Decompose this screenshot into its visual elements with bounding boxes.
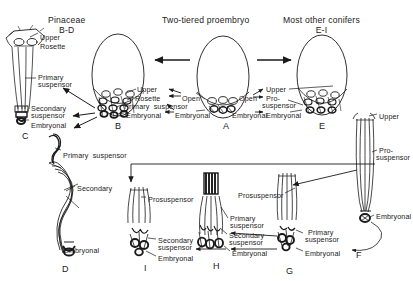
- ann-c-secondary2: suspensor: [31, 112, 65, 120]
- header-two-tiered: Two-tiered proembryo: [162, 16, 250, 26]
- ann-c-primary2: suspensor: [38, 81, 72, 89]
- ann-a-embryonal-left: Embryonal: [175, 112, 210, 120]
- header-other-conifers: Most other conifersE-I: [283, 16, 360, 35]
- embryo-A: [197, 36, 249, 118]
- stage-D: D: [62, 265, 69, 274]
- ann-e-suspensor: suspensor: [262, 102, 296, 110]
- ann-f-embryonal: Embryonal: [376, 213, 411, 221]
- arrow-B-to-D: [74, 117, 97, 128]
- header-two-tiered-line1: Two-tiered proembryo: [162, 16, 250, 26]
- ann-d-primary-susp: Primary suspensor: [63, 152, 127, 160]
- ann-i-prosuspensor: Prosuspensor: [148, 196, 194, 204]
- ann-c-upper: Upper: [40, 34, 60, 42]
- figure-canvas: PinaceaeB-DTwo-tiered proembryoMost othe…: [0, 0, 413, 281]
- stage-G: G: [286, 267, 293, 276]
- ann-b-upper: Upper: [137, 86, 157, 94]
- stage-E: E: [319, 122, 325, 131]
- ann-c-rosette: Rosette: [40, 43, 65, 51]
- arrow-B-to-C: [63, 88, 95, 108]
- ann-a-open-right: Open: [239, 95, 257, 103]
- ann-i-embryonal: Embryonal: [158, 255, 193, 263]
- ann-g-embryonal: Embryonal: [305, 250, 340, 258]
- stage-F: F: [356, 251, 362, 260]
- ann-d-embryonal: Embryonal: [64, 247, 99, 255]
- ann-h-primary2: suspensor: [230, 222, 264, 230]
- ann-a-embryonal-right: Embryonal: [232, 112, 267, 120]
- header-other-conifers-line2: E-I: [283, 26, 360, 36]
- ann-b-primary-susp: Primary suspensor: [124, 103, 188, 111]
- ann-a-open-left: Open: [182, 95, 200, 103]
- ann-e-upper: Upper: [266, 86, 286, 94]
- stage-B: B: [115, 122, 121, 131]
- ann-f-suspensor: suspensor: [376, 154, 410, 162]
- arrow-B-to-C2: [73, 113, 95, 116]
- arrow-F-loop: [352, 222, 382, 250]
- ann-e-embryonal: Embryonal: [266, 112, 301, 120]
- embryo-E: [297, 35, 347, 115]
- arrow-F-to-G: [293, 170, 357, 185]
- connector-F-to-I: [131, 164, 375, 182]
- ann-c-embryonal: Embryonal: [31, 122, 66, 130]
- ann-g-primary2: suspensor: [305, 236, 339, 244]
- ann-i-secondary2: suspensor: [158, 244, 192, 252]
- embryo-H: [198, 173, 223, 248]
- embryo-I: [128, 187, 150, 255]
- stage-A: A: [223, 122, 229, 131]
- ann-f-upper: Upper: [379, 113, 399, 121]
- ann-h-embryonal: Embryonal: [232, 250, 267, 258]
- ann-b-embryonal: Embryonal: [126, 112, 161, 120]
- ann-h-secondary2: suspensor: [229, 239, 263, 247]
- stage-H: H: [213, 262, 220, 271]
- ann-d-secondary: Secondary: [77, 185, 112, 193]
- stage-I: I: [144, 264, 147, 273]
- stage-C: C: [22, 132, 29, 141]
- ann-g-prosuspensor: Prosuspensor: [238, 192, 284, 200]
- embryo-F: [353, 113, 375, 222]
